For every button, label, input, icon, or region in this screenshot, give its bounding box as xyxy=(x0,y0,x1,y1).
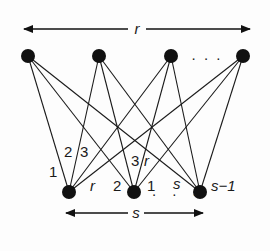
bottom-span-arrow: s xyxy=(66,204,203,221)
edge-label-r-b: r xyxy=(144,152,150,169)
edge-label-2: 2 xyxy=(64,143,72,160)
top-arrow-label: r xyxy=(135,20,141,37)
edge xyxy=(28,56,134,192)
top-node-2 xyxy=(92,49,106,63)
edge-label-s-minus-1: s−1 xyxy=(211,177,236,194)
edge xyxy=(134,56,171,192)
edge xyxy=(134,56,243,192)
bipartite-graph-diagram: r . . . xyxy=(0,0,270,251)
edge-label-1: 1 xyxy=(49,163,57,180)
bottom-node-1 xyxy=(62,185,76,199)
edges xyxy=(28,56,243,192)
edge-label-2-b: 2 xyxy=(113,177,121,194)
edge-label-r: r xyxy=(90,177,96,194)
edge-label-3-b: 3 xyxy=(131,152,139,169)
top-ellipsis: . . . xyxy=(192,46,223,63)
edge-label-s: s xyxy=(173,175,181,192)
diagram-svg: r . . . xyxy=(0,0,270,251)
top-node-3 xyxy=(164,49,178,63)
top-span-arrow: r xyxy=(24,20,250,37)
top-node-1 xyxy=(21,49,35,63)
edge-label-3: 3 xyxy=(80,143,88,160)
bottom-arrow-label: s xyxy=(132,204,140,221)
top-node-4 xyxy=(236,49,250,63)
edge xyxy=(200,56,243,192)
bottom-node-2 xyxy=(127,185,141,199)
edge xyxy=(99,56,134,192)
